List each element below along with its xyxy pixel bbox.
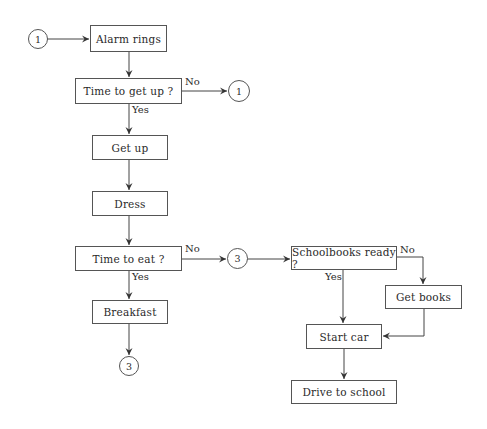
breakfast-connector: 3	[119, 356, 139, 376]
process-start-car: Start car	[306, 324, 382, 349]
decision-time-to-get-up: Time to get up ?	[75, 78, 182, 104]
process-alarm-rings: Alarm rings	[90, 25, 167, 52]
process-get-up: Get up	[92, 135, 168, 160]
edge-label-eat-no: No	[185, 243, 200, 254]
decision-schoolbooks-ready: Schoolbooks ready ?	[291, 246, 397, 270]
arrow-books-no	[397, 257, 423, 284]
decision-time-to-eat: Time to eat ?	[75, 246, 182, 271]
arrow-getbooks-to-startcar	[383, 309, 424, 336]
edge-label-getup-no: No	[185, 76, 200, 87]
process-breakfast: Breakfast	[92, 300, 168, 324]
edge-label-books-yes: Yes	[325, 271, 342, 282]
edge-label-getup-yes: Yes	[132, 104, 149, 115]
process-dress: Dress	[92, 191, 168, 216]
loop-connector: 1	[228, 80, 250, 102]
process-drive-to-school: Drive to school	[291, 380, 397, 404]
process-get-books: Get books	[385, 285, 462, 309]
eat-no-connector: 3	[227, 248, 248, 269]
edge-label-books-no: No	[400, 244, 415, 255]
edge-label-eat-yes: Yes	[132, 271, 149, 282]
connector-lines	[0, 0, 487, 429]
start-connector: 1	[28, 29, 48, 49]
